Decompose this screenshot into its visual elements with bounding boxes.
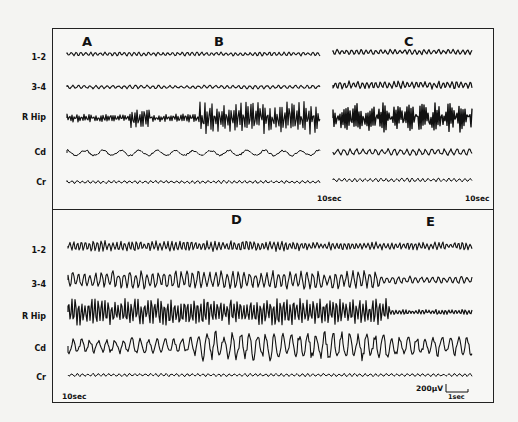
calibration-bar-icon: [446, 384, 468, 392]
eeg-traces: [0, 0, 518, 422]
